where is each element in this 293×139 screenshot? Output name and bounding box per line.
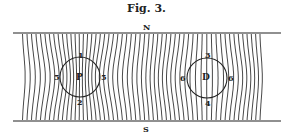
field-line [216, 34, 218, 120]
field-line [162, 34, 166, 120]
field-line [36, 34, 40, 120]
field-line [23, 34, 26, 120]
circle-d-right-label: 6 [228, 73, 234, 83]
south-label: S [143, 124, 149, 134]
field-line [171, 34, 176, 120]
field-line [137, 34, 140, 120]
circle-p-left-label: 5 [54, 72, 60, 82]
field-line [141, 34, 144, 120]
field-line [127, 34, 131, 120]
field-line [88, 34, 91, 120]
circle-p-top-label: 1 [78, 50, 84, 60]
field-line [150, 34, 153, 120]
field-line [260, 34, 262, 120]
field-line [221, 34, 224, 120]
field-line [40, 34, 45, 120]
circle-d-top-label: 3 [205, 50, 211, 60]
field-line [32, 34, 36, 120]
field-line [211, 34, 212, 120]
field-lines-diagram [0, 0, 293, 139]
field-line [238, 34, 242, 120]
field-line [158, 34, 162, 120]
field-line [247, 34, 251, 120]
field-line [118, 34, 123, 120]
field-line [190, 34, 193, 120]
field-line [195, 34, 197, 120]
field-line [256, 34, 259, 120]
circle-p-right-label: 5 [101, 72, 107, 82]
circle-d-left-label: 6 [180, 73, 186, 83]
field-line [27, 34, 30, 120]
field-line [113, 34, 118, 120]
field-line [85, 34, 87, 120]
field-line [154, 34, 158, 120]
field-line [234, 34, 238, 120]
circle-p-bottom-label: 2 [77, 97, 83, 107]
field-line [71, 34, 74, 120]
field-line [243, 34, 247, 120]
field-line [251, 34, 254, 120]
field-line [132, 34, 136, 120]
circle-d-bottom-label: 4 [205, 98, 211, 108]
field-line [167, 34, 171, 120]
circle-d-label: D [202, 72, 210, 82]
north-label: N [143, 22, 150, 32]
circle-p-label: P [76, 72, 83, 82]
field-line [122, 34, 126, 120]
field-line [146, 34, 149, 120]
